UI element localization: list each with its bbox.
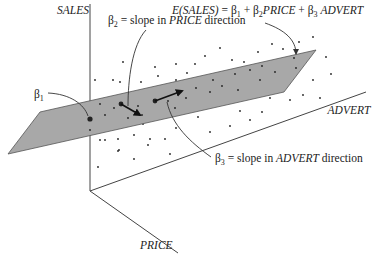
equation-leader — [265, 23, 296, 54]
beta2-label: β2 = slope in PRICE direction — [108, 14, 246, 29]
price-axis-label: PRICE — [139, 239, 173, 251]
regression-plane — [8, 50, 316, 154]
advert-axis-label: ADVERT — [327, 104, 372, 116]
beta3-label: β3 = slope in ADVERT direction — [215, 152, 363, 167]
intercept-point — [87, 116, 92, 121]
regression-plane-diagram: SALES ADVERT PRICE β1 β2 = slope in PRIC… — [0, 0, 386, 261]
sales-axis-label: SALES — [57, 4, 89, 16]
beta1-label: β1 — [34, 88, 44, 103]
